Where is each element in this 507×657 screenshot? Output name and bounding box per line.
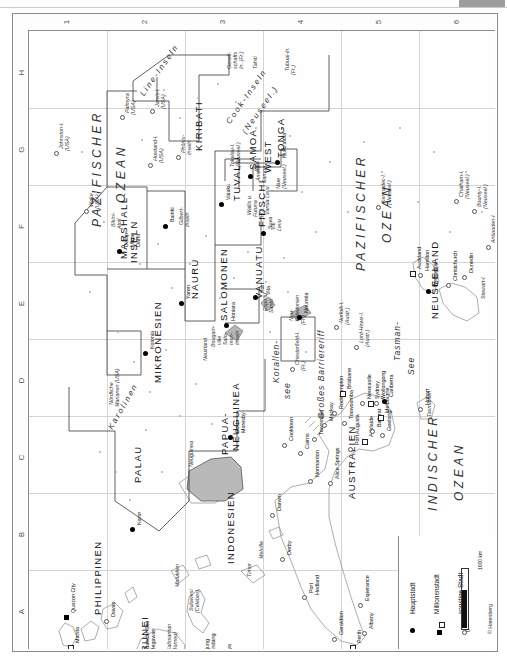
island-speck xyxy=(99,451,101,453)
island-speck xyxy=(89,291,91,293)
island-speck xyxy=(195,383,197,385)
city-marker-circle-open xyxy=(462,275,467,280)
city-label: Begawan xyxy=(151,629,156,649)
island-speck xyxy=(141,139,143,141)
island-label: (Fr.) xyxy=(301,361,306,371)
island-speck xyxy=(157,243,159,245)
island-speck xyxy=(265,281,267,283)
ocean-label: PAZIFISCHER xyxy=(91,110,103,227)
island-marker xyxy=(290,367,295,372)
island-label: (Neuseel.) xyxy=(387,180,392,205)
island-label: (Borneo) xyxy=(173,632,178,649)
city-marker-circle-open xyxy=(282,443,287,448)
island-label: Molukken xyxy=(175,564,180,587)
city-marker-circle-open xyxy=(270,513,275,518)
island-label: (Fr.) xyxy=(291,65,296,75)
island-label: Melville xyxy=(259,541,264,559)
island-speck xyxy=(287,291,289,293)
city-marker-circle-open xyxy=(312,437,317,442)
city-label: Port Augusta xyxy=(355,414,360,445)
city-marker-dot xyxy=(382,399,387,404)
map-legend: Hauptstadt Millionenstadt sonstige Stadt… xyxy=(398,536,495,649)
island-label: (Celebes) xyxy=(195,590,200,613)
island-speck xyxy=(481,211,483,213)
city-marker-dot xyxy=(228,435,233,440)
city-label: Surabaya xyxy=(227,644,232,649)
city-label: Dunedin xyxy=(469,253,474,273)
city-label: Hobart xyxy=(425,389,430,405)
island-marker xyxy=(54,151,59,156)
city-marker-circle-open xyxy=(280,557,285,562)
island-speck xyxy=(161,471,163,473)
island-speck xyxy=(417,201,419,203)
island-label: (Neuseel.) xyxy=(282,164,287,189)
island-marker xyxy=(176,155,181,160)
city-label: Bairiki xyxy=(170,207,175,222)
city-label: Koror xyxy=(137,512,142,525)
island-speck xyxy=(145,429,147,431)
island-speck xyxy=(275,91,277,93)
island-speck xyxy=(163,89,165,91)
scale-bar xyxy=(461,568,468,628)
city-marker-dot xyxy=(117,249,122,254)
scale-label-1000km: 1000 km xyxy=(477,551,483,570)
island-speck xyxy=(233,277,235,279)
island-speck xyxy=(189,263,191,265)
city-label: Vaiaku xyxy=(226,184,231,200)
city-label: Cairns xyxy=(305,433,310,449)
island-label: (Austr.) xyxy=(365,330,370,347)
island-speck xyxy=(315,231,317,233)
island-label: Atoll xyxy=(117,219,122,230)
scan-edge-line xyxy=(0,7,507,8)
city-label: Esperance xyxy=(365,575,370,601)
city-label: Manila xyxy=(75,627,80,643)
country-label: PAPUA- xyxy=(220,412,230,455)
country-label: PALAU xyxy=(133,446,143,483)
island-speck xyxy=(217,83,219,85)
index-strip-left: HGFEDCBA xyxy=(13,30,29,649)
legend-symbol-capital xyxy=(410,628,415,633)
island-marker xyxy=(84,209,89,214)
city-label: Christchurch xyxy=(453,251,458,281)
city-marker-circle-open xyxy=(348,447,353,452)
island-speck xyxy=(255,127,257,129)
city-marker-circle-open xyxy=(446,283,451,288)
island-speck xyxy=(381,171,383,173)
city-label: Darrit xyxy=(136,234,141,247)
city-label: Newcastle xyxy=(367,374,372,399)
city-marker-dot xyxy=(297,315,302,320)
island-label: (USA) xyxy=(65,136,70,151)
city-marker-circle-open xyxy=(332,411,337,416)
scale-label-zero: 0 xyxy=(465,629,471,632)
island-speck xyxy=(247,251,249,253)
island-speck xyxy=(347,211,349,213)
city-marker-circle-open xyxy=(418,407,423,412)
city-label: Cooktown xyxy=(289,417,294,441)
island-speck xyxy=(197,97,199,99)
island-speck xyxy=(103,221,105,223)
island-speck xyxy=(363,141,365,143)
city-marker-dot xyxy=(224,323,229,328)
island-marker xyxy=(354,345,359,350)
island-speck xyxy=(179,415,181,417)
island-label: (USA) xyxy=(161,94,166,109)
island-label: Stewart-I. xyxy=(481,276,486,299)
island-speck xyxy=(119,171,121,173)
city-marker-circle-open xyxy=(360,401,365,406)
city-marker-dot xyxy=(179,301,184,306)
island-speck xyxy=(211,423,213,425)
ocean-label: INDISCHER xyxy=(427,413,439,511)
country-label: PHILIPPINEN xyxy=(93,540,103,615)
island-speck xyxy=(205,235,207,237)
city-label: Geelong xyxy=(387,411,392,431)
island-speck xyxy=(179,117,181,119)
city-marker-circle-open xyxy=(342,421,347,426)
island-marker xyxy=(454,199,459,204)
country-label: KIRIBATI xyxy=(194,101,204,151)
island-label: (USA) xyxy=(95,194,100,209)
city-marker-square-open xyxy=(340,391,346,397)
city-label: Alice Springs xyxy=(335,448,340,479)
city-marker-circle-open xyxy=(418,273,423,278)
city-marker-square-open xyxy=(362,439,368,445)
island-speck xyxy=(433,151,435,153)
